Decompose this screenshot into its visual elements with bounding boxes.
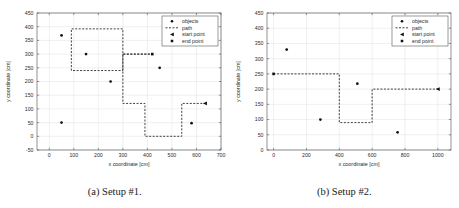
object-point (60, 121, 63, 124)
y-tick-label: 400 (254, 25, 263, 31)
x-tick-label: 0 (272, 152, 275, 158)
chart-setup-1: 0100200300400500600700-50050100150200250… (0, 0, 230, 180)
object-point (319, 118, 322, 121)
x-tick-label: 600 (192, 152, 201, 158)
y-tick-label: 150 (254, 101, 263, 107)
legend-label: path (182, 25, 192, 31)
y-tick-label: 200 (254, 86, 263, 92)
x-tick-label: 200 (94, 152, 103, 158)
figure-panels: 0100200300400500600700-50050100150200250… (0, 0, 459, 180)
x-axis-title: x coordinate [cm] (338, 161, 380, 167)
x-tick-label: 0 (48, 152, 51, 158)
legend-label: objects (412, 18, 429, 24)
x-tick-label: 600 (367, 152, 376, 158)
x-tick-label: 1000 (432, 152, 444, 158)
y-axis-title: y coordinate [cm] (235, 60, 241, 102)
x-tick-label: 200 (302, 152, 311, 158)
legend-label: objects (182, 18, 199, 24)
end-point-marker (151, 53, 154, 56)
y-tick-label: 150 (25, 92, 34, 98)
x-axis-title: x coordinate [cm] (108, 161, 150, 167)
x-tick-label: 300 (119, 152, 128, 158)
chart-setup-2: 0200400600800100005010015020025030035040… (230, 0, 459, 180)
plot-area-1: 0100200300400500600700-50050100150200250… (5, 10, 225, 167)
y-tick-label: 300 (25, 51, 34, 57)
y-tick-label: 400 (25, 24, 34, 30)
object-point (396, 131, 399, 134)
y-tick-label: 250 (254, 71, 263, 77)
y-tick-label: 450 (254, 10, 263, 16)
legend: objectspathstart pointend point (162, 16, 218, 46)
plot-area-2: 0200400600800100005010015020025030035040… (235, 10, 451, 167)
y-tick-label: 100 (254, 116, 263, 122)
legend: objectspathstart pointend point (392, 16, 448, 46)
legend-label: end point (182, 38, 204, 44)
y-tick-label: 350 (254, 40, 263, 46)
end-point-marker (272, 73, 275, 76)
panel-setup-2: 0200400600800100005010015020025030035040… (230, 0, 459, 180)
y-tick-label: 250 (25, 65, 34, 71)
object-point (285, 48, 288, 51)
object-point (85, 53, 88, 56)
figure-captions: (a) Setup #1. (b) Setup #2. (0, 180, 459, 208)
y-tick-label: 100 (25, 106, 34, 112)
y-tick-label: 200 (25, 78, 34, 84)
y-tick-label: 450 (25, 10, 34, 16)
y-tick-label: 50 (257, 132, 263, 138)
object-point (109, 80, 112, 83)
y-tick-label: -50 (26, 147, 34, 153)
caption-setup-2: (b) Setup #2. (230, 180, 459, 208)
legend-label: start point (182, 31, 205, 37)
x-tick-label: 800 (400, 152, 409, 158)
y-tick-label: 0 (260, 147, 263, 153)
y-tick-label: 300 (254, 56, 263, 62)
object-point (158, 66, 161, 69)
y-tick-label: 0 (31, 133, 34, 139)
x-tick-label: 100 (69, 152, 78, 158)
legend-label: end point (412, 38, 434, 44)
y-tick-label: 350 (25, 37, 34, 43)
x-tick-label: 500 (168, 152, 177, 158)
legend-label: start point (412, 31, 435, 37)
x-tick-label: 400 (334, 152, 343, 158)
x-tick-label: 400 (143, 152, 152, 158)
panel-setup-1: 0100200300400500600700-50050100150200250… (0, 0, 230, 180)
legend-label: path (412, 25, 422, 31)
y-axis-title: y coordinate [cm] (5, 60, 11, 102)
caption-setup-1: (a) Setup #1. (0, 180, 230, 208)
x-tick-label: 700 (217, 152, 226, 158)
object-point (190, 122, 193, 125)
figure-setups: 0100200300400500600700-50050100150200250… (0, 0, 459, 208)
object-point (356, 82, 359, 85)
y-tick-label: 50 (28, 120, 34, 126)
object-point (60, 34, 63, 37)
